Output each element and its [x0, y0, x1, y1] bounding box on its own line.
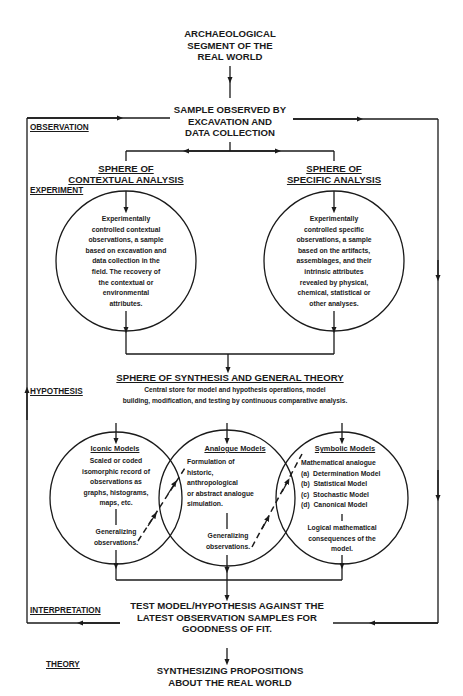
body-line: environmental	[66, 288, 186, 299]
node-line: SAMPLE OBSERVED BY	[130, 104, 330, 116]
stage-label-theory: THEORY	[46, 660, 80, 669]
iconic-models-body: Scaled or coded isomorphic record of obs…	[60, 456, 172, 509]
stage-label-observation: OBSERVATION	[30, 123, 89, 132]
body-line: intrinsic attributes	[274, 267, 394, 278]
body-line: Scaled or coded	[60, 456, 172, 467]
body-line: Experimentally	[66, 214, 186, 225]
sample-observed-node: SAMPLE OBSERVED BY EXCAVATION AND DATA C…	[130, 104, 330, 139]
node-line: TEST MODEL/HYPOTHESIS AGAINST THE	[107, 600, 347, 612]
node-line: LATEST OBSERVATION SAMPLES FOR	[107, 612, 347, 624]
footer-line: model.	[292, 544, 392, 555]
analogue-models-title: Analogue Models	[190, 444, 280, 455]
analogue-models-footer: Generalizing observations.	[178, 531, 278, 552]
body-line: data collection in the	[66, 256, 186, 267]
footer-line: consequences of the	[292, 534, 392, 545]
footer-line: Logical mathematical	[292, 523, 392, 534]
footer-line: Generalizing	[66, 527, 166, 538]
node-line: ABOUT THE REAL WORLD	[130, 677, 330, 689]
symbolic-models-body: Mathematical analogue (a) Determination …	[301, 458, 411, 511]
body-line: Mathematical analogue	[301, 458, 411, 469]
node-line: GOODNESS OF FIT.	[107, 623, 347, 635]
body-line: based on excavation and	[66, 246, 186, 257]
model-list-item: (d) Canonical Model	[301, 500, 411, 511]
synthesis-title: SPHERE OF SYNTHESIS AND GENERAL THEORY	[100, 372, 360, 383]
title-line: CONTEXTUAL ANALYSIS	[56, 174, 196, 185]
body-line: isomorphic record of	[60, 467, 172, 478]
body-line: anthropological	[187, 478, 297, 489]
model-list-item: (a) Determination Model	[301, 469, 411, 480]
body-line: chemical, statistical or	[274, 288, 394, 299]
body-line: revealed by physical,	[274, 278, 394, 289]
body-line: controlled specific	[274, 225, 394, 236]
body-line: controlled contextual	[66, 225, 186, 236]
contextual-sphere-title: SPHERE OF CONTEXTUAL ANALYSIS	[56, 163, 196, 185]
model-list-item: (b) Statistical Model	[301, 479, 411, 490]
body-line: other analyses.	[274, 299, 394, 310]
node-line: DATA COLLECTION	[130, 127, 330, 139]
body-line: observations as	[60, 477, 172, 488]
title-line: SPHERE OF	[56, 163, 196, 174]
body-line: simulation.	[187, 499, 297, 510]
symbolic-models-title: Symbolic Models	[300, 444, 390, 455]
body-line: Experimentally	[274, 214, 394, 225]
node-line: EXCAVATION AND	[130, 116, 330, 128]
model-list-item: (c) Stochastic Model	[301, 490, 411, 501]
symbolic-models-footer: Logical mathematical consequences of the…	[292, 523, 392, 555]
body-line: building, modification, and testing by c…	[95, 396, 375, 407]
footer-line: observations.	[178, 542, 278, 553]
body-line: observations, a sample	[274, 235, 394, 246]
body-line: assemblages, and their	[274, 256, 394, 267]
title-line: SPECIFIC ANALYSIS	[264, 174, 404, 185]
body-line: or abstract analogue	[187, 489, 297, 500]
body-line: the contextual or	[66, 278, 186, 289]
footer-line: Generalizing	[178, 531, 278, 542]
node-line: SYNTHESIZING PROPOSITIONS	[130, 665, 330, 677]
body-line: Formulation of	[187, 457, 297, 468]
specific-sphere-title: SPHERE OF SPECIFIC ANALYSIS	[264, 163, 404, 185]
synthesizing-propositions-node: SYNTHESIZING PROPOSITIONS ABOUT THE REAL…	[130, 665, 330, 688]
body-line: Central store for model and hypothesis o…	[95, 385, 375, 396]
iconic-models-footer: Generalizing observations.	[66, 527, 166, 548]
stage-label-hypothesis: HYPOTHESIS	[30, 387, 83, 396]
title-line: SPHERE OF	[264, 163, 404, 174]
body-line: observations, a sample	[66, 235, 186, 246]
synthesis-body: Central store for model and hypothesis o…	[95, 385, 375, 406]
stage-label-experiment: EXPERIMENT	[30, 186, 83, 195]
specific-sphere-body: Experimentally controlled specific obser…	[274, 214, 394, 309]
node-line: REAL WORLD	[130, 51, 330, 63]
contextual-sphere-body: Experimentally controlled contextual obs…	[66, 214, 186, 309]
body-line: attributes.	[66, 299, 186, 310]
body-line: field. The recovery of	[66, 267, 186, 278]
stage-label-interpretation: INTERPRETATION	[30, 606, 101, 615]
body-line: historic,	[187, 468, 297, 479]
body-line: based on the artifacts,	[274, 246, 394, 257]
node-line: ARCHAEOLOGICAL	[130, 28, 330, 40]
body-line: graphs, histograms,	[60, 488, 172, 499]
footer-line: observations.	[66, 538, 166, 549]
iconic-models-title: Iconic Models	[72, 444, 158, 455]
body-line: maps, etc.	[60, 498, 172, 509]
analogue-models-body: Formulation of historic, anthropological…	[187, 457, 297, 510]
real-world-node: ARCHAEOLOGICAL SEGMENT OF THE REAL WORLD	[130, 28, 330, 63]
node-line: SEGMENT OF THE	[130, 40, 330, 52]
test-model-node: TEST MODEL/HYPOTHESIS AGAINST THE LATEST…	[107, 600, 347, 635]
